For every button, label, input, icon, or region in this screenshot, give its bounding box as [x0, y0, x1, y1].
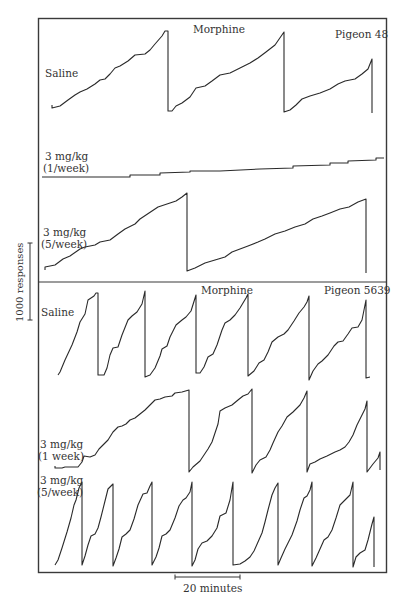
trace-panel0-record2: [45, 193, 366, 273]
trace-panel1-record2: [55, 482, 374, 567]
top-dose1-label-line2: (1/week): [43, 162, 89, 174]
trace-panel0-record1: [42, 158, 384, 177]
bottom-subject-label: Pigeon 5639: [324, 284, 391, 296]
top-subject-label: Pigeon 48: [335, 28, 388, 40]
trace-panel1-record0: [58, 291, 370, 380]
horizontal-scale-bar: [175, 575, 240, 580]
cumulative-traces: [42, 31, 384, 567]
bottom-drug-label: Morphine: [201, 284, 253, 296]
top-dose2-label-line2: (5/week): [41, 238, 87, 250]
plot-canvas: [0, 0, 401, 601]
bottom-dose2-label-line2: (5/week): [37, 486, 83, 498]
top-drug-label: Morphine: [193, 23, 245, 35]
trace-panel0-record0: [52, 31, 372, 113]
vertical-scale-bar: [28, 243, 33, 320]
bottom-saline-label: Saline: [41, 306, 74, 318]
bottom-dose1-label-line1: 3 mg/kg: [40, 438, 83, 450]
bottom-dose2-label-line1: 3 mg/kg: [40, 474, 83, 486]
top-dose2-label-line1: 3 mg/kg: [43, 226, 86, 238]
y-scale-label: 1000 responses: [14, 242, 25, 322]
x-scale-label: 20 minutes: [183, 582, 242, 594]
top-saline-label: Saline: [45, 67, 78, 79]
cumulative-record-figure: Morphine Pigeon 48 Saline 3 mg/kg (1/wee…: [0, 0, 401, 601]
top-dose1-label-line1: 3 mg/kg: [45, 150, 88, 162]
trace-panel1-record1: [55, 389, 380, 473]
bottom-dose1-label-line2: (1 week): [38, 450, 84, 462]
